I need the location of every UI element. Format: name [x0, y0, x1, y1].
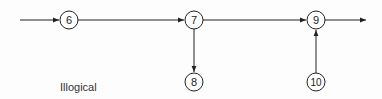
node-9-label: 9 — [313, 14, 319, 26]
node-8: 8 — [185, 73, 203, 91]
node-10: 10 — [307, 73, 325, 91]
node-7: 7 — [185, 11, 203, 29]
network-diagram: 6 7 9 8 10 — [0, 0, 382, 99]
node-6-label: 6 — [66, 14, 72, 26]
diagram-caption: Illogical — [60, 81, 97, 93]
node-7-label: 7 — [191, 14, 197, 26]
node-9: 9 — [307, 11, 325, 29]
node-8-label: 8 — [191, 76, 197, 88]
node-10-label: 10 — [310, 77, 322, 88]
node-6: 6 — [60, 11, 78, 29]
